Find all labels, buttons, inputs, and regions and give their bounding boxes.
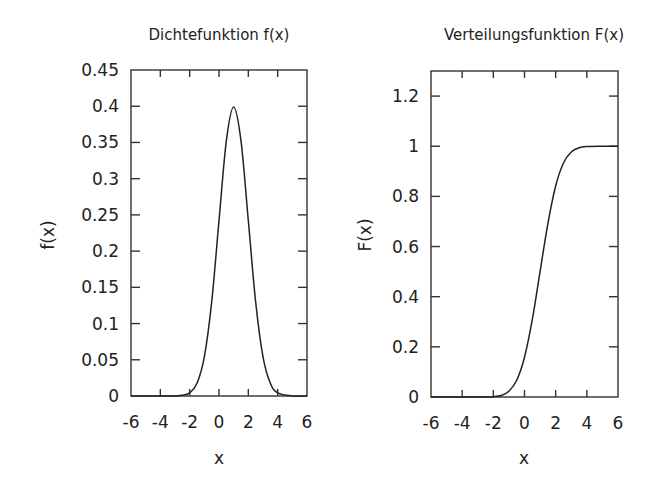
density-y-tick-label: 0.15 [81,277,119,297]
density-plot-frame [131,70,307,396]
cdf-x-tick-label: 2 [550,413,561,433]
density-y-axis-label: f(x) [38,220,58,249]
cdf-y-tick-label: 0.4 [392,287,419,307]
cdf-y-axis-label: F(x) [355,218,375,251]
cdf-x-tick-label: 0 [519,413,530,433]
cdf-y-tick-label: 1 [408,136,419,156]
cdf-x-tick-label: -6 [423,413,440,433]
cdf-y-tick-label: 1.2 [392,86,419,106]
density-x-tick-label: -2 [181,412,198,432]
cdf-x-tick-label: -2 [485,413,502,433]
cdf-x-tick-label: -4 [454,413,471,433]
cdf-y-tick-label: 0.2 [392,337,419,357]
cdf-y-tick-label: 0.6 [392,237,419,257]
chart-figure: Dichtefunktion f(x) x f(x) -6-4-2024600.… [0,0,659,490]
cdf-plot: Verteilungsfunktion F(x) x F(x) -6-4-202… [355,26,624,468]
density-x-axis-label: x [214,448,224,468]
cdf-x-tick-label: 4 [581,413,592,433]
density-y-tick-label: 0.25 [81,205,119,225]
density-y-tick-label: 0.1 [92,314,119,334]
cdf-curve-fx [431,146,618,397]
density-plot: Dichtefunktion f(x) x f(x) -6-4-2024600.… [38,26,312,468]
density-curve-fx [131,107,307,396]
density-y-tick-label: 0.3 [92,169,119,189]
density-y-tick-label: 0 [108,386,119,406]
density-x-tick-label: 0 [214,412,225,432]
density-y-tick-label: 0.05 [81,350,119,370]
cdf-plot-title: Verteilungsfunktion F(x) [444,26,624,44]
density-x-tick-label: -4 [152,412,169,432]
density-y-tick-label: 0.4 [92,96,119,116]
density-x-tick-label: -6 [123,412,140,432]
density-x-tick-label: 4 [272,412,283,432]
density-y-tick-label: 0.45 [81,60,119,80]
density-x-tick-label: 6 [302,412,313,432]
density-y-tick-label: 0.2 [92,241,119,261]
cdf-x-axis-label: x [519,448,529,468]
cdf-y-tick-label: 0.8 [392,186,419,206]
density-y-tick-label: 0.35 [81,132,119,152]
cdf-x-tick-label: 6 [613,413,624,433]
density-plot-title: Dichtefunktion f(x) [149,26,290,44]
cdf-y-tick-label: 0 [408,387,419,407]
density-x-tick-label: 2 [243,412,254,432]
cdf-plot-frame [431,71,618,397]
